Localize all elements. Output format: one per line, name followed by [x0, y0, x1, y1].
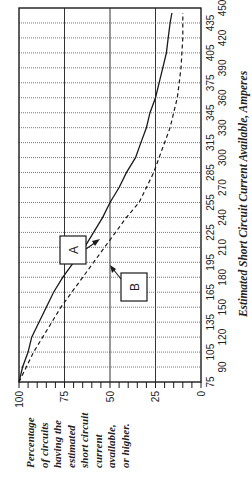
x-tick-label: 180	[217, 269, 228, 286]
x-tick-label: 405	[205, 44, 216, 61]
y-tick-label: 25	[150, 391, 161, 403]
x-tick-label: 345	[205, 104, 216, 121]
x-tick-label: 225	[205, 224, 216, 241]
series-a-line	[19, 13, 172, 382]
x-tick-label: 105	[205, 343, 216, 360]
y-tick-label: 50	[105, 391, 116, 403]
x-tick-label: 120	[217, 328, 228, 345]
horizontal-gridlines	[65, 8, 156, 382]
x-tick-label: 210	[217, 239, 228, 256]
series-b-line	[19, 13, 183, 382]
x-tick-label: 375	[205, 74, 216, 91]
x-tick-label: 300	[217, 149, 228, 166]
y-tick-label: 0	[196, 391, 207, 397]
x-axis-title: Estimated Short Circuit Current Availabl…	[237, 70, 250, 318]
y-axis-title-line: or higher.	[119, 423, 131, 468]
x-tick-label: 450	[217, 0, 228, 16]
y-axis-title: Percentageof circuitshaving theestimated…	[24, 412, 131, 469]
x-tick-label: 420	[217, 29, 228, 46]
y-axis-title-line: available,	[105, 424, 117, 468]
x-tick-label: 165	[205, 283, 216, 300]
y-tick-label: 75	[59, 391, 70, 403]
x-tick-label: 435	[205, 14, 216, 31]
x-tick-label: 360	[217, 89, 228, 106]
arrowhead-icon	[92, 239, 100, 246]
y-axis-ticks: 1007550250	[14, 382, 207, 408]
x-tick-label: 255	[205, 194, 216, 211]
annotation-a: A	[60, 236, 100, 264]
x-tick-label: 75	[205, 376, 216, 388]
x-tick-label: 330	[217, 119, 228, 136]
x-tick-label: 390	[217, 59, 228, 76]
annotation-a-label: A	[67, 246, 81, 254]
annotation-b: B	[110, 265, 147, 301]
line-chart: 1007550250 75901051201351501651801952102…	[0, 0, 252, 494]
x-tick-label: 150	[217, 298, 228, 315]
x-tick-label: 240	[217, 209, 228, 226]
y-axis-title-line: current	[92, 433, 104, 468]
y-axis-title-line: short circuit	[78, 412, 90, 469]
y-axis-title-line: estimated	[65, 425, 77, 468]
x-tick-label: 285	[205, 164, 216, 181]
x-tick-label: 135	[205, 313, 216, 330]
chart-stage: 1007550250 75901051201351501651801952102…	[0, 0, 252, 494]
x-tick-label: 90	[217, 361, 228, 373]
x-tick-label: 315	[205, 134, 216, 151]
y-tick-label: 100	[14, 391, 25, 408]
x-axis-ticks: 7590105120135150165180195210225240255270…	[205, 0, 228, 388]
x-tick-label: 270	[217, 179, 228, 196]
y-axis-title-line: having the	[51, 420, 63, 468]
y-axis-title-line: of circuits	[38, 422, 50, 468]
annotation-b-label: B	[128, 283, 142, 291]
y-axis-title-line: Percentage	[24, 417, 36, 468]
x-tick-label: 195	[205, 254, 216, 271]
